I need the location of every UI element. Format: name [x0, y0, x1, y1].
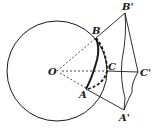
- geometry-diagram: O B B' C C' A A': [0, 0, 153, 131]
- segment-OA: [60, 73, 86, 88]
- label-B-prime: B': [121, 1, 134, 12]
- label-A: A: [78, 89, 87, 100]
- segment-B-prime-C-prime: [125, 13, 138, 72]
- arc-AB: [86, 38, 98, 89]
- segment-C-prime-A-prime: [124, 72, 138, 110]
- label-B: B: [91, 25, 100, 36]
- label-C-prime: C': [140, 67, 151, 78]
- label-C: C: [108, 61, 116, 72]
- label-O: O: [48, 66, 57, 77]
- label-A-prime: A': [118, 112, 130, 123]
- segment-OB: [57, 38, 96, 71]
- curve-B-prime-A-prime: [121, 13, 125, 110]
